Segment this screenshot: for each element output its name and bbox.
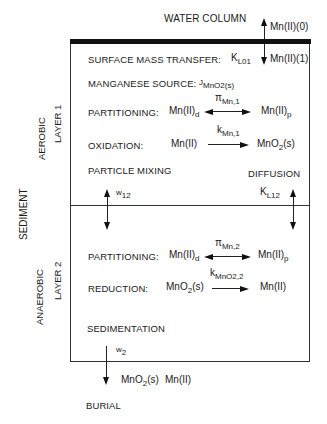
layer1-label: LAYER 1 <box>52 105 63 143</box>
surface-mass-transfer-label: SURFACE MASS TRANSFER: <box>88 54 221 65</box>
reduction-coef: kMnO2,2 <box>210 267 243 278</box>
water-column-label: WATER COLUMN <box>164 13 246 24</box>
oxidation-arrow <box>208 144 244 145</box>
arrow-down-icon <box>103 377 109 385</box>
partitioning2-right: Mn(II)p <box>258 249 289 260</box>
partitioning2-left: Mn(II)d <box>169 249 200 260</box>
layer-divider <box>70 205 310 206</box>
mn-0-label: Mn(II)(0) <box>270 21 308 32</box>
partitioning2-coef: πMn,2 <box>215 237 240 248</box>
partitioning1-arrow <box>210 111 246 112</box>
partitioning1-coef: πMn,1 <box>215 92 240 103</box>
arrow-right-icon <box>240 142 249 148</box>
partitioning1-label: PARTITIONING: <box>88 107 159 118</box>
arrow-left-icon <box>204 109 213 115</box>
burial-label: BURIAL <box>86 400 121 411</box>
arrow-up-icon <box>290 189 296 197</box>
partitioning1-left: Mn(II)d <box>169 105 200 116</box>
w12-symbol: w12 <box>116 186 131 197</box>
sediment-label: SEDIMENT <box>18 188 29 240</box>
sedimentation-arrow <box>106 346 107 378</box>
w2-symbol: w2 <box>116 343 126 354</box>
partitioning1-right: Mn(II)p <box>261 105 292 116</box>
burial-species-mn: Mn(II) <box>165 374 191 385</box>
particle-mixing-arrow <box>107 193 108 225</box>
reduction-right: Mn(II) <box>260 281 286 292</box>
arrow-left-icon <box>204 254 213 260</box>
oxidation-left: Mn(II) <box>171 138 197 149</box>
arrow-up-icon <box>261 18 267 26</box>
arrow-right-icon <box>242 254 251 260</box>
sedimentation-label: SEDIMENTATION <box>87 323 165 334</box>
diffusion-arrow <box>293 193 294 225</box>
kl12-symbol: KL12 <box>260 186 280 197</box>
oxidation-label: OXIDATION: <box>88 140 143 151</box>
anaerobic-label: ANAEROBIC <box>34 269 45 325</box>
arrow-right-icon <box>242 109 251 115</box>
burial-species-mno2: MnO2(s) <box>121 374 159 385</box>
reduction-label: REDUCTION: <box>88 283 148 294</box>
arrow-right-icon <box>240 286 249 292</box>
manganese-source-label: MANGANESE SOURCE: <box>88 78 196 89</box>
arrow-down-icon <box>290 222 296 230</box>
aerobic-label: AEROBIC <box>36 117 47 160</box>
kl01-symbol: KL01 <box>231 52 251 63</box>
partitioning2-arrow <box>210 256 246 257</box>
partitioning2-label: PARTITIONING: <box>88 251 159 262</box>
oxidation-coef: kMn,1 <box>217 124 240 135</box>
arrow-up-icon <box>104 189 110 197</box>
diffusion-label: DIFFUSION <box>248 168 300 179</box>
sediment-water-interface <box>70 39 311 44</box>
reduction-left: MnO2(s) <box>166 281 204 292</box>
oxidation-right: MnO2(s) <box>257 138 295 149</box>
layer2-label: LAYER 2 <box>52 262 63 300</box>
particle-mixing-label: PARTICLE MIXING <box>88 165 172 176</box>
j-mno2-symbol: JMnO2(s) <box>199 76 234 87</box>
arrow-down-icon <box>104 222 110 230</box>
